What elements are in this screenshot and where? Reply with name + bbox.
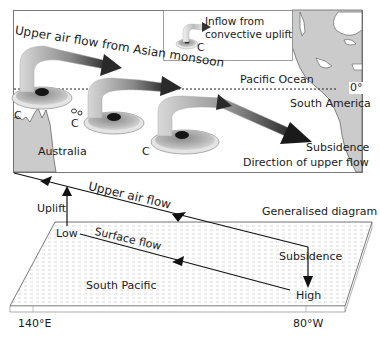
legend-c-symbol: C (197, 41, 204, 53)
legend-line-2: convective uplift (205, 28, 292, 40)
direction-upper-flow-label: Direction of upper flow (243, 157, 369, 169)
australia-label: Australia (38, 146, 87, 158)
lon-140e-label: 140°E (18, 318, 51, 330)
high-label: High (296, 290, 321, 302)
pacific-ocean-label: Pacific Ocean (240, 74, 314, 86)
convection-marker-1: C (14, 110, 22, 122)
equator-label: 0° (349, 82, 364, 94)
legend-line-1: Inflow from (205, 15, 264, 27)
lon-80w-label: 80°W (293, 318, 323, 330)
convection-marker-2: C (71, 118, 79, 130)
upper-flow-arrowhead-1 (40, 176, 52, 186)
south-pacific-label: South Pacific (86, 280, 156, 292)
south-america-label: South America (290, 98, 371, 110)
map-subsidence-label: Subsidence (306, 142, 369, 154)
convection-marker-3: C (142, 146, 150, 158)
uplift-label: Uplift (37, 203, 66, 215)
generalised-title: Generalised diagram (262, 206, 377, 218)
low-label: Low (56, 228, 78, 240)
gen-subsidence-label: Subsidence (279, 251, 342, 263)
